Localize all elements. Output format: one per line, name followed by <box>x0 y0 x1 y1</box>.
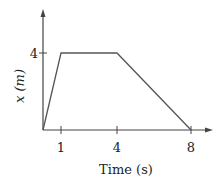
position-time-chart: 1 4 8 4 Time (s) x (m) <box>0 0 220 181</box>
y-axis-label: x (m) <box>12 69 27 103</box>
position-line <box>43 53 191 130</box>
x-tick-label-4: 4 <box>113 140 121 155</box>
x-tick-label-1: 1 <box>57 140 65 155</box>
x-axis-arrow-icon <box>205 128 213 133</box>
x-tick-label-8: 8 <box>187 140 195 155</box>
x-axis-label: Time (s) <box>99 162 153 177</box>
y-tick-label-4: 4 <box>30 46 38 61</box>
y-axis-arrow-icon <box>41 9 46 17</box>
